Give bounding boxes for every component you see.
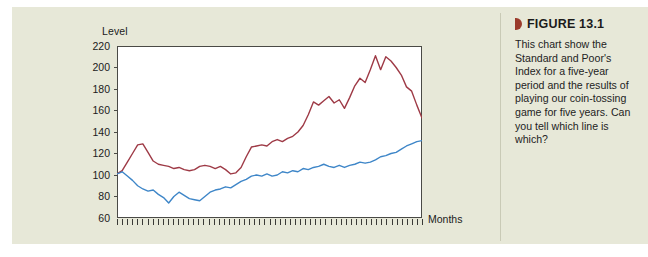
x-tick-mark	[137, 219, 138, 225]
y-tick-label: 60	[70, 213, 110, 223]
y-axis-title: Level	[102, 25, 128, 37]
x-tick-mark	[234, 219, 235, 225]
x-axis-title: Months	[428, 213, 462, 225]
y-tick-label: 160	[70, 105, 110, 115]
y-tick-mark	[114, 175, 118, 176]
x-tick-mark	[300, 219, 301, 225]
x-tick-mark	[310, 219, 311, 225]
x-tick-mark	[341, 219, 342, 225]
x-tick-mark	[325, 219, 326, 225]
y-tick-mark	[114, 196, 118, 197]
figure-root: Level 6080100120140160180200220 Months F…	[0, 0, 648, 257]
y-tick-label: 80	[70, 191, 110, 201]
x-tick-mark	[371, 219, 372, 225]
caption-header: FIGURE 13.1	[515, 17, 637, 31]
x-tick-mark	[122, 219, 123, 225]
caption-block: FIGURE 13.1 This chart show the Standard…	[515, 17, 637, 147]
plot-area	[117, 46, 422, 218]
x-tick-mark	[351, 219, 352, 225]
x-tick-mark	[148, 219, 149, 225]
x-tick-mark	[219, 219, 220, 225]
x-tick-mark	[290, 219, 291, 225]
x-tick-mark	[366, 219, 367, 225]
x-tick-mark	[153, 219, 154, 225]
y-tick-label: 180	[70, 84, 110, 94]
x-tick-mark	[285, 219, 286, 225]
chart-block: Level 6080100120140160180200220 Months	[60, 25, 490, 235]
caption-body-text: This chart show the Standard and Poor's …	[515, 38, 637, 147]
x-tick-mark	[412, 219, 413, 225]
x-tick-mark	[397, 219, 398, 225]
x-tick-mark	[132, 219, 133, 225]
x-tick-mark	[239, 219, 240, 225]
x-tick-mark	[142, 219, 143, 225]
x-tick-mark	[203, 219, 204, 225]
series-line-0	[117, 56, 422, 174]
y-tick-mark	[114, 67, 118, 68]
x-tick-mark	[249, 219, 250, 225]
y-tick-mark	[114, 89, 118, 90]
x-tick-mark	[275, 219, 276, 225]
x-tick-mark	[117, 219, 118, 225]
x-tick-mark	[402, 219, 403, 225]
x-tick-mark	[280, 219, 281, 225]
y-tick-label: 100	[70, 170, 110, 180]
x-tick-mark	[336, 219, 337, 225]
figure-panel: Level 6080100120140160180200220 Months F…	[12, 7, 648, 244]
x-tick-mark	[158, 219, 159, 225]
x-tick-mark	[346, 219, 347, 225]
x-tick-mark	[229, 219, 230, 225]
x-tick-mark	[264, 219, 265, 225]
y-tick-mark	[114, 153, 118, 154]
x-tick-mark	[361, 219, 362, 225]
x-tick-mark	[392, 219, 393, 225]
x-tick-mark	[188, 219, 189, 225]
x-tick-mark	[376, 219, 377, 225]
x-tick-mark	[224, 219, 225, 225]
x-tick-mark	[178, 219, 179, 225]
x-tick-mark	[381, 219, 382, 225]
x-tick-mark	[270, 219, 271, 225]
x-tick-mark	[173, 219, 174, 225]
x-tick-mark	[244, 219, 245, 225]
caption-divider	[500, 13, 501, 241]
x-tick-mark	[417, 219, 418, 225]
x-tick-mark	[315, 219, 316, 225]
y-tick-label: 220	[70, 41, 110, 51]
y-tick-mark	[114, 132, 118, 133]
series-line-1	[117, 141, 422, 203]
x-tick-mark	[163, 219, 164, 225]
y-tick-label: 200	[70, 62, 110, 72]
x-tick-mark	[295, 219, 296, 225]
y-tick-label: 140	[70, 127, 110, 137]
x-tick-mark	[305, 219, 306, 225]
x-tick-mark	[356, 219, 357, 225]
x-tick-mark	[168, 219, 169, 225]
x-tick-mark	[198, 219, 199, 225]
triangle-marker-icon	[515, 18, 522, 30]
x-tick-mark	[331, 219, 332, 225]
x-tick-mark	[209, 219, 210, 225]
x-tick-mark	[254, 219, 255, 225]
figure-number-label: FIGURE 13.1	[527, 17, 604, 31]
x-tick-mark	[214, 219, 215, 225]
x-tick-mark	[407, 219, 408, 225]
x-tick-mark	[183, 219, 184, 225]
y-tick-label: 120	[70, 148, 110, 158]
x-tick-mark	[193, 219, 194, 225]
y-tick-mark	[114, 110, 118, 111]
x-tick-mark	[422, 219, 423, 225]
x-tick-mark	[127, 219, 128, 225]
x-tick-mark	[386, 219, 387, 225]
x-axis-ticks	[117, 219, 422, 227]
x-tick-mark	[259, 219, 260, 225]
x-tick-mark	[320, 219, 321, 225]
